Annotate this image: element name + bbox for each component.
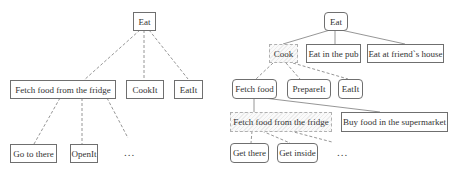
left-root-node-eat: Eat <box>133 12 156 31</box>
right-node-eat-at-friends-house: Eat at friend`s house <box>367 44 444 63</box>
left-node-cookit: CookIt <box>126 80 164 99</box>
right-node-eatit: EatIt <box>338 79 363 99</box>
right-ellipsis: ... <box>337 146 348 158</box>
left-node-go-to-there: Go to there <box>10 144 57 163</box>
right-node-fetch-food: Fetch food <box>232 79 277 99</box>
right-node-eat-in-the-pub: Eat in the pub <box>306 44 361 63</box>
right-node-buy-food-in-supermarket: Buy food in the supermarket <box>341 112 448 132</box>
right-node-fetch-food-from-fridge: Fetch food from the fridge <box>230 112 332 132</box>
right-node-prepareit: PrepareIt <box>287 79 331 99</box>
left-node-fetch-food-from-fridge: Fetch food from the fridge <box>10 80 116 99</box>
left-node-openit: OpenIt <box>70 144 98 163</box>
right-node-get-inside: Get inside <box>277 143 318 163</box>
right-node-get-there: Get there <box>230 143 269 163</box>
left-ellipsis: ... <box>124 146 135 158</box>
right-node-cook: Cook <box>269 44 298 63</box>
right-root-node-eat: Eat <box>324 12 348 31</box>
left-node-eatit: EatIt <box>174 80 203 99</box>
